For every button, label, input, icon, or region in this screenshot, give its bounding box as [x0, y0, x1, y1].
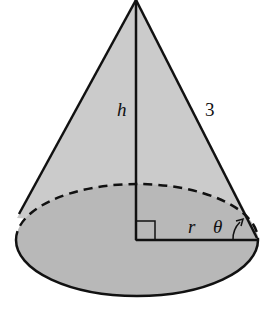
cone-figure	[0, 0, 271, 316]
cone-diagram: h 3 r θ	[0, 0, 271, 316]
angle-label: θ	[213, 217, 222, 236]
slant-length-label: 3	[205, 100, 215, 119]
height-label: h	[117, 100, 127, 119]
radius-label: r	[188, 217, 195, 236]
